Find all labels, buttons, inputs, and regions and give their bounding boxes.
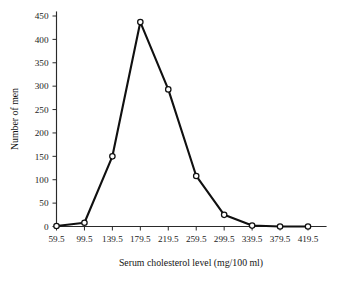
data-point-marker bbox=[194, 173, 199, 178]
data-point-marker bbox=[221, 212, 226, 217]
y-tick-label: 400 bbox=[35, 35, 49, 45]
series-markers bbox=[54, 19, 311, 229]
x-tick-label: 99.5 bbox=[76, 234, 92, 244]
x-tick-label: 419.5 bbox=[298, 234, 319, 244]
y-tick-label: 450 bbox=[35, 11, 49, 21]
x-tick-label: 259.5 bbox=[186, 234, 207, 244]
data-point-marker bbox=[277, 224, 282, 229]
y-tick-label: 100 bbox=[35, 175, 49, 185]
y-tick-label: 200 bbox=[35, 128, 49, 138]
y-tick-label: 300 bbox=[35, 81, 49, 91]
y-tick-label: 150 bbox=[35, 152, 49, 162]
x-tick-label: 299.5 bbox=[214, 234, 235, 244]
y-axis-title: Number of men bbox=[9, 88, 20, 150]
data-point-marker bbox=[305, 224, 310, 229]
data-point-marker bbox=[166, 87, 171, 92]
x-tick-label: 59.5 bbox=[48, 234, 64, 244]
data-point-marker bbox=[138, 19, 143, 24]
series-line bbox=[57, 22, 309, 226]
x-tick-label: 379.5 bbox=[270, 234, 291, 244]
data-point-marker bbox=[249, 223, 254, 228]
x-tick-label: 139.5 bbox=[102, 234, 123, 244]
data-point-marker bbox=[54, 223, 59, 228]
y-tick-label: 0 bbox=[44, 222, 49, 232]
data-point-marker bbox=[110, 154, 115, 159]
data-point-marker bbox=[82, 220, 87, 225]
x-tick-label: 339.5 bbox=[242, 234, 263, 244]
y-tick-label: 250 bbox=[35, 105, 49, 115]
x-tick-label: 219.5 bbox=[158, 234, 179, 244]
x-axis-title: Serum cholesterol level (mg/100 ml) bbox=[119, 257, 263, 269]
chart-figure: 050100150200250300350400450 59.599.5139.… bbox=[0, 0, 341, 281]
x-tick-label: 179.5 bbox=[130, 234, 151, 244]
y-axis-ticks: 050100150200250300350400450 bbox=[35, 11, 57, 232]
line-chart-canvas: 050100150200250300350400450 59.599.5139.… bbox=[0, 0, 341, 281]
y-tick-label: 50 bbox=[39, 198, 49, 208]
y-tick-label: 350 bbox=[35, 58, 49, 68]
